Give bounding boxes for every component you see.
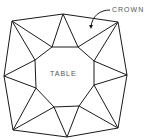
crown-callout-arrow — [91, 10, 110, 27]
table-facet — [35, 47, 94, 107]
crown-label: CROWN — [112, 6, 144, 13]
gem-cut-diagram: TABLE CROWN — [0, 0, 147, 140]
arrowhead-icon — [89, 25, 93, 29]
table-label: TABLE — [50, 70, 77, 77]
